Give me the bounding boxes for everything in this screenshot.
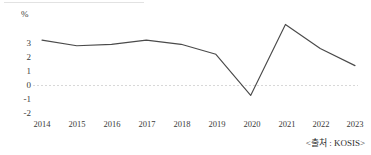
x-tick-label-2021: 2021 <box>270 119 304 129</box>
plot-area <box>0 0 371 155</box>
chart-container: % 3 2 1 0 -1 -2 2014 2015 2016 2017 2018… <box>0 0 371 155</box>
source-attribution: <출처 : KOSIS> <box>306 138 365 149</box>
x-tick-label-2015: 2015 <box>60 119 94 129</box>
x-tick-label-2020: 2020 <box>235 119 269 129</box>
x-tick-label-2017: 2017 <box>130 119 164 129</box>
x-tick-label-2019: 2019 <box>200 119 234 129</box>
x-tick-label-2023: 2023 <box>338 119 371 129</box>
x-tick-label-2014: 2014 <box>25 119 59 129</box>
x-tick-label-2018: 2018 <box>165 119 199 129</box>
data-series-line <box>42 24 355 95</box>
x-tick-label-2022: 2022 <box>304 119 338 129</box>
x-tick-label-2016: 2016 <box>95 119 129 129</box>
